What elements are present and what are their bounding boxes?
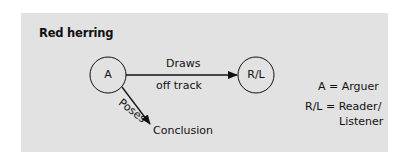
conclusion-label: Conclusion [153,124,213,137]
legend-key-reader: R/L = [305,100,335,113]
legend-row-reader: R/L = Reader/ [305,100,381,113]
legend-value-arguer: Arguer [342,80,379,93]
legend-key-arguer: A = [318,80,338,93]
legend-value-reader: Reader/ [339,100,382,113]
edge-draws-label-line2: off track [156,79,202,92]
legend-row-arguer: A = Arguer [318,80,379,93]
legend-value-reader-line2: Listener [339,115,383,128]
node-reader-label: R/L [238,68,274,81]
edge-draws-label-line1: Draws [166,57,200,70]
node-arguer-label: A [90,68,126,81]
